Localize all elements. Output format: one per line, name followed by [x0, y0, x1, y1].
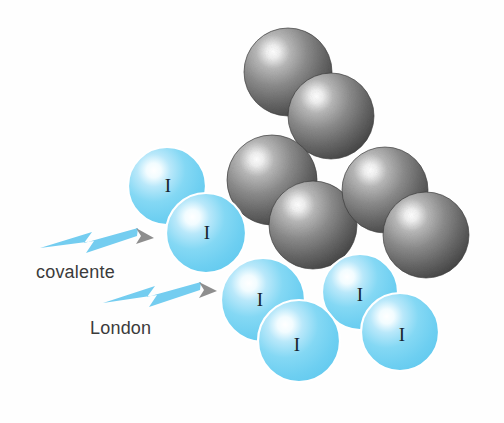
london-arrow	[103, 282, 217, 307]
atom-label-iodine: I	[204, 223, 210, 242]
london-label: London	[90, 318, 151, 339]
london-arrow-head	[199, 282, 217, 298]
iodine-packing-figure: I I I I I I covalente London	[0, 0, 504, 423]
covalente-label: covalente	[36, 262, 115, 283]
figure-canvas	[0, 0, 504, 423]
atom-label-iodine: I	[294, 335, 300, 354]
covalente-arrow-shaft	[40, 228, 138, 253]
atom-label-iodine: I	[399, 325, 405, 344]
london-arrow-shaft	[103, 282, 201, 307]
gray-sphere	[383, 192, 469, 278]
gray-sphere-group	[227, 28, 469, 278]
covalente-arrow	[40, 228, 154, 253]
covalente-arrow-head	[136, 228, 154, 244]
atom-label-iodine: I	[165, 176, 171, 195]
atom-label-iodine: I	[357, 285, 363, 304]
atom-label-iodine: I	[257, 290, 263, 309]
